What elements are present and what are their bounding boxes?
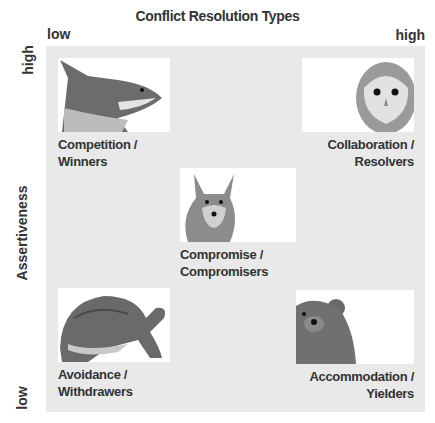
collaboration-label-line1: Collaboration /	[302, 136, 414, 153]
quadrant-compromise: Compromise / Compromisers	[180, 168, 296, 280]
quadrant-avoidance: Avoidance / Withdrawers	[58, 288, 170, 400]
turtle-image	[58, 288, 170, 362]
fox-image	[180, 168, 296, 242]
shark-image	[58, 58, 170, 132]
competition-label-line1: Competition /	[58, 136, 170, 153]
x-axis-high-label: high	[395, 27, 425, 43]
teddy-bear-image	[296, 290, 414, 364]
compromise-label-line2: Compromisers	[180, 263, 296, 280]
y-axis-high-label: high	[20, 40, 36, 80]
avoidance-label-line1: Avoidance /	[58, 366, 170, 383]
y-axis-title: Assertiveness	[14, 183, 30, 283]
x-axis-low-label: low	[47, 26, 70, 42]
compromise-label-line1: Compromise /	[180, 246, 296, 263]
accommodation-label-line1: Accommodation /	[296, 368, 414, 385]
competition-label-line2: Winners	[58, 153, 170, 170]
quadrant-competition: Competition / Winners	[58, 58, 170, 170]
collaboration-label-line2: Resolvers	[302, 153, 414, 170]
y-axis-low-label: low	[14, 378, 30, 418]
owl-image	[302, 58, 414, 132]
quadrant-accommodation: Accommodation / Yielders	[296, 290, 414, 402]
accommodation-label-line2: Yielders	[296, 385, 414, 402]
diagram-title: Conflict Resolution Types	[0, 8, 435, 24]
avoidance-label-line2: Withdrawers	[58, 383, 170, 400]
quadrant-collaboration: Collaboration / Resolvers	[302, 58, 414, 170]
